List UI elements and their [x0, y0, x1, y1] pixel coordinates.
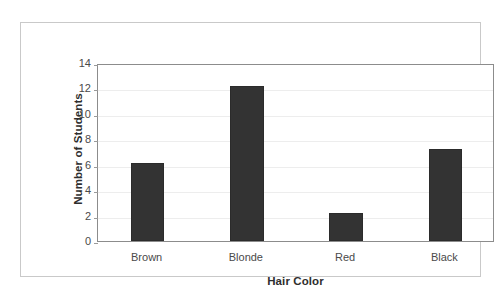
x-axis-title: Hair Color [97, 275, 494, 287]
y-tick-label: 4 [61, 185, 91, 196]
y-axis-tick-labels: 02468101214 [59, 64, 91, 242]
y-tick-label: 2 [61, 211, 91, 222]
y-tick-label: 12 [61, 83, 91, 94]
y-tick-label: 8 [61, 134, 91, 145]
bar [429, 149, 463, 241]
bar [329, 213, 363, 241]
chart-figure: Number of Students 02468101214 BrownBlon… [0, 0, 500, 296]
y-tick-label: 10 [61, 109, 91, 120]
plot-area [97, 64, 494, 242]
gridline [98, 141, 493, 142]
chart-outer-frame: Number of Students 02468101214 BrownBlon… [20, 22, 481, 277]
y-tick-label: 14 [61, 58, 91, 69]
x-tick-label: Blonde [196, 251, 295, 263]
y-tick-mark [94, 243, 98, 244]
bar [230, 86, 264, 241]
y-tick-mark [94, 65, 98, 66]
y-tick-mark [94, 141, 98, 142]
x-tick-label: Brown [97, 251, 196, 263]
y-tick-mark [94, 218, 98, 219]
y-tick-mark [94, 192, 98, 193]
y-tick-mark [94, 116, 98, 117]
gridline [98, 90, 493, 91]
y-tick-mark [94, 90, 98, 91]
x-axis-tick-labels: BrownBlondeRedBlack [97, 251, 494, 267]
y-tick-label: 6 [61, 160, 91, 171]
x-tick-label: Black [395, 251, 494, 263]
bar [131, 163, 165, 241]
y-tick-mark [94, 167, 98, 168]
gridline [98, 116, 493, 117]
x-tick-label: Red [296, 251, 395, 263]
y-tick-label: 0 [61, 236, 91, 247]
